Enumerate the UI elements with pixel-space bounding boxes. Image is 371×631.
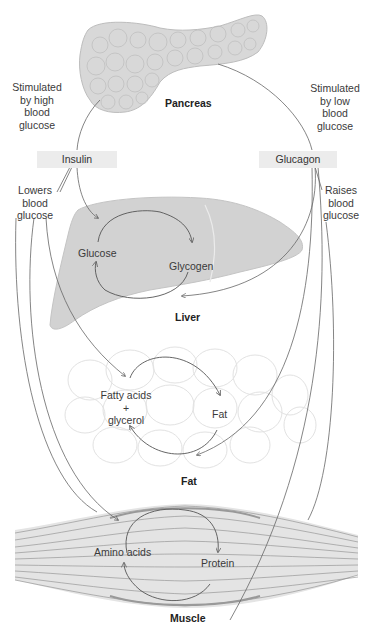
glucagon-stimulus-label: Stimulated by low blood glucose [305,82,365,132]
glucagon-stimulus-line-3: blood [305,107,365,120]
liver-glucose-label: Glucose [78,247,117,260]
insulin-effect-line-3: glucose [12,209,58,222]
insulin-stimulus-line-3: blood [8,106,66,119]
plus-sign: + [96,402,156,415]
insulin-effect-label: Lowers blood glucose [12,184,58,222]
glycerol-text: glycerol [96,414,156,427]
muscle-protein-label: Protein [201,557,234,570]
liver-glycogen-label: Glycogen [169,260,213,273]
glucagon-stimulus-line-2: by low [305,95,365,108]
insulin-stimulus-line-1: Stimulated [8,81,66,94]
insulin-effect-line-2: blood [12,197,58,210]
fat-fatty-acids-label: Fatty acids + glycerol [96,389,156,427]
insulin-hormone-box: Insulin [37,151,117,168]
insulin-effect-line-1: Lowers [12,184,58,197]
glucagon-hormone-box: Glucagon [259,151,337,168]
glucagon-stimulus-line-1: Stimulated [305,82,365,95]
pancreas-label: Pancreas [165,97,212,110]
glucagon-effect-label: Raises blood glucose [318,184,364,222]
insulin-stimulus-line-2: by high [8,94,66,107]
fat-fat-label: Fat [212,408,227,421]
glucagon-effect-line-3: glucose [318,209,364,222]
fat-label: Fat [181,475,197,488]
glucagon-stimulus-line-4: glucose [305,120,365,133]
insulin-stimulus-line-4: glucose [8,119,66,132]
fatty-acids-text: Fatty acids [96,389,156,402]
liver-label: Liver [175,311,200,324]
glucagon-effect-line-1: Raises [318,184,364,197]
muscle-label: Muscle [170,612,206,625]
glucagon-effect-line-2: blood [318,197,364,210]
muscle-illustration [15,504,358,608]
insulin-stimulus-label: Stimulated by high blood glucose [8,81,66,131]
muscle-amino-acids-label: Amino acids [94,546,151,559]
